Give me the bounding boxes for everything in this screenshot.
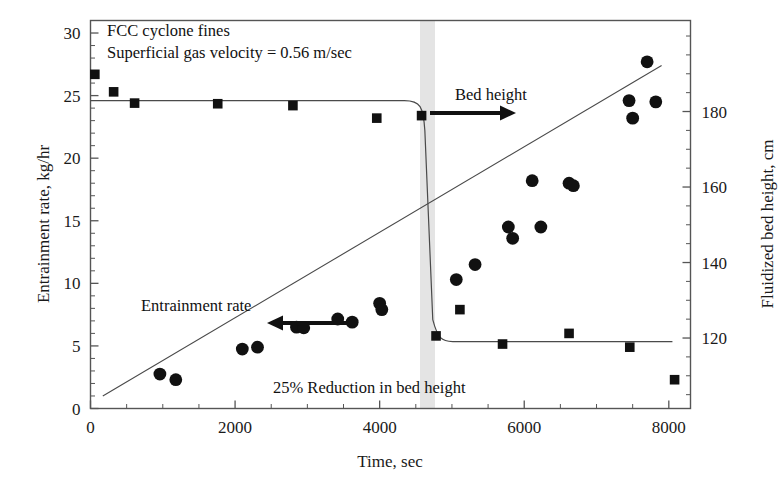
y-axis-left-ticks: 051015202530 [64, 21, 99, 419]
x-axis-title: Time, sec [0, 452, 780, 472]
entrainment-data-point [567, 179, 580, 192]
x-axis-tick-label: 8000 [652, 418, 686, 437]
y-axis-right-tick-label: 120 [702, 329, 728, 348]
entrainment-data-point [469, 258, 482, 271]
x-axis-tick-label: 4000 [363, 418, 397, 437]
bed-height-data-point [431, 331, 441, 341]
y-axis-left-tick-label: 25 [64, 87, 81, 106]
bed-height-data-point [288, 101, 298, 111]
bed-height-data-point [564, 329, 574, 339]
y-axis-left-tick-label: 10 [64, 274, 81, 293]
bed-height-data-point [109, 87, 119, 97]
entrainment-data-point [649, 95, 662, 108]
y-axis-right-ticks: 120140160180 [683, 36, 728, 395]
entrainment-data-point [623, 94, 636, 107]
y-axis-left-title: Entrainment rate, kg/hr [34, 94, 54, 354]
y-axis-right-title: Fluidized bed height, cm [758, 74, 778, 374]
entrainment-data-point [153, 368, 166, 381]
y-axis-left-tick-label: 30 [64, 24, 81, 43]
y-axis-right-tick-label: 180 [702, 103, 728, 122]
bed-height-data-point [372, 113, 382, 123]
y-axis-left-tick-label: 15 [64, 212, 81, 231]
entrainment-data-point [251, 341, 264, 354]
event-band [420, 20, 435, 408]
entrainment-data-point [169, 373, 182, 386]
entrainment-data-point [626, 112, 639, 125]
entrainment-data-point [236, 343, 249, 356]
entrainment-annotation: Entrainment rate [141, 296, 251, 315]
note-line-2: Superficial gas velocity = 0.56 m/sec [107, 43, 352, 62]
y-axis-right-tick-label: 160 [702, 178, 728, 197]
x-axis-ticks: 02000400060008000 [86, 401, 686, 437]
bed-height-data-point [455, 305, 465, 315]
bed-height-data-point [498, 339, 508, 349]
x-axis-tick-label: 2000 [218, 418, 252, 437]
entrainment-data-point [534, 221, 547, 234]
bed-height-data-point [625, 342, 635, 352]
x-axis-tick-label: 6000 [507, 418, 541, 437]
bed-height-annotation: Bed height [455, 85, 527, 104]
entrainment-data-point [506, 232, 519, 245]
entrainment-data-point [502, 221, 515, 234]
reduction-annotation: 25% Reduction in bed height [273, 378, 466, 397]
entrainment-trend-line [103, 66, 662, 396]
bed-height-data-point [213, 99, 223, 109]
y-axis-left-tick-label: 20 [64, 149, 81, 168]
entrainment-data-point [526, 174, 539, 187]
entrainment-data-point [450, 273, 463, 286]
figure-container: 051015202530 120140160180 02000400060008… [0, 0, 780, 486]
entrainment-data-points [153, 55, 662, 386]
chart-canvas: 051015202530 120140160180 02000400060008… [0, 0, 780, 486]
x-axis-tick-label: 0 [86, 418, 95, 437]
event-band-group [420, 20, 435, 408]
bed-height-data-point [670, 375, 680, 385]
entrainment-data-point [641, 55, 654, 68]
bed-height-data-points [90, 70, 679, 385]
bed-height-data-point [417, 111, 427, 121]
bed-height-data-point [90, 70, 100, 80]
entrainment-data-point [375, 303, 388, 316]
y-axis-left-tick-label: 0 [72, 400, 81, 419]
y-axis-right-tick-label: 140 [702, 254, 728, 273]
bed-height-data-point [130, 98, 140, 108]
note-line-1: FCC cyclone fines [107, 21, 230, 40]
y-axis-left-tick-label: 5 [72, 337, 81, 356]
bed-height-arrow [430, 106, 516, 121]
